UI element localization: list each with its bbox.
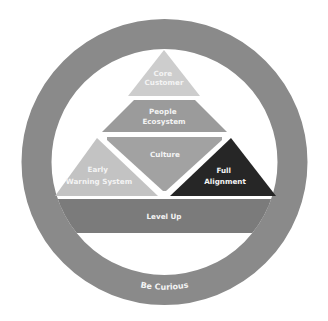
diagram-canvas: Core Customer People Ecosystem Culture E… [0,0,328,321]
culture-label: Culture [150,150,180,159]
people-ecosystem-block [102,100,227,132]
level-up-label: Level Up [147,212,182,221]
pyramid-ring-diagram: Core Customer People Ecosystem Culture E… [0,0,328,321]
